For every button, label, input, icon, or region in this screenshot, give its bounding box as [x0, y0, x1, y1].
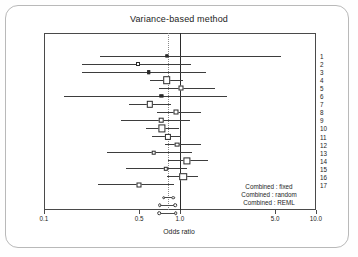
x-axis-tick	[139, 210, 140, 214]
chart-title: Variance-based method	[0, 14, 358, 24]
x-axis-tick-label: 0.5	[135, 215, 144, 222]
confidence-interval-line	[121, 120, 190, 121]
effect-size-marker	[137, 182, 142, 187]
forest-plot-window: Variance-based method Citation Odds rati…	[0, 0, 358, 257]
effect-size-marker	[173, 110, 178, 115]
effect-size-marker	[136, 62, 140, 66]
confidence-interval-line	[126, 168, 187, 169]
pooled-lower-marker	[158, 204, 162, 208]
citation-label: 3	[320, 69, 342, 76]
x-axis-title: Odds ratio	[0, 228, 358, 235]
confidence-interval-line	[82, 72, 206, 73]
effect-size-marker	[147, 101, 153, 107]
citation-label: 8	[320, 109, 342, 116]
legend-item: Combined : REML	[223, 199, 315, 207]
confidence-interval-line	[64, 96, 227, 97]
citation-label: 17	[320, 181, 342, 188]
pooled-lower-marker	[157, 211, 161, 215]
effect-size-marker	[165, 54, 168, 57]
citation-label: 16	[320, 173, 342, 180]
confidence-interval-line	[159, 88, 215, 89]
citation-label: 7	[320, 101, 342, 108]
citation-label: 12	[320, 141, 342, 148]
confidence-interval-line	[157, 112, 200, 113]
citation-label: 10	[320, 125, 342, 132]
effect-size-marker	[184, 157, 191, 164]
x-axis-tick-label: 5.0	[271, 215, 280, 222]
effect-size-marker	[147, 70, 151, 74]
citation-label: 6	[320, 93, 342, 100]
citation-label: 11	[320, 133, 342, 140]
legend-item: Combined : fixed	[223, 183, 315, 191]
legend: Combined : fixedCombined : randomCombine…	[223, 183, 315, 208]
confidence-interval-line	[107, 152, 192, 153]
legend-item: Combined : random	[223, 191, 315, 199]
citation-label: 14	[320, 157, 342, 164]
effect-size-marker	[159, 125, 166, 132]
x-axis-tick	[180, 210, 181, 214]
citation-label: 5	[320, 85, 342, 92]
effect-size-marker	[151, 150, 156, 155]
x-axis-tick-label: 10.0	[310, 215, 322, 222]
effect-size-marker	[159, 118, 164, 123]
effect-size-marker	[165, 133, 171, 139]
confidence-interval-line	[165, 144, 200, 145]
citation-label: 15	[320, 165, 342, 172]
x-axis-tick-label: 1.0	[176, 215, 185, 222]
x-axis-tick	[316, 210, 317, 214]
citation-label: 1	[320, 53, 342, 60]
effect-size-marker	[179, 86, 184, 91]
effect-size-marker	[175, 142, 180, 147]
x-axis-tick-label: 0.1	[40, 215, 49, 222]
x-axis-tick	[275, 210, 276, 214]
effect-size-marker	[160, 95, 163, 98]
citation-label: 13	[320, 149, 342, 156]
x-axis-tick	[44, 210, 45, 214]
effect-size-marker	[164, 166, 168, 170]
pooled-upper-marker	[171, 196, 175, 200]
confidence-interval-line	[100, 56, 280, 57]
citation-label: 4	[320, 77, 342, 84]
pooled-lower-marker	[162, 196, 166, 200]
citation-label: 9	[320, 117, 342, 124]
citation-label: 2	[320, 61, 342, 68]
pooled-upper-marker	[173, 204, 177, 208]
